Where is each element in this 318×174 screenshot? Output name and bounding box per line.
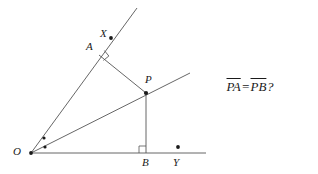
geometry-figure: O X A P B Y PA=PB? (0, 0, 318, 174)
equal-angle-dot-upper (42, 136, 45, 139)
segment-PA-label: PA (226, 79, 241, 94)
point-label-B: B (142, 157, 149, 168)
point-dot-X (109, 36, 113, 40)
point-label-A: A (86, 41, 93, 52)
point-label-X: X (100, 28, 107, 39)
segment-PB-label: PB (250, 79, 267, 94)
line-segment-AP (99, 55, 146, 93)
right-angle-mark-at-B (139, 146, 146, 153)
equals-sign: = (241, 79, 250, 94)
line-ray-OP (31, 73, 190, 153)
question-mark: ? (267, 79, 274, 94)
equality-question-annotation: PA=PB? (226, 80, 273, 94)
point-dot-Y (176, 145, 180, 149)
point-dot-O (29, 151, 33, 155)
right-angle-B-path (139, 146, 146, 153)
equal-angle-dot-lower (43, 145, 46, 148)
point-dot-P (144, 91, 148, 95)
point-label-Y: Y (173, 157, 179, 168)
point-label-O: O (13, 146, 21, 157)
vertex-dots (29, 36, 180, 155)
figure-lines (31, 8, 206, 153)
line-ray-OX (31, 8, 137, 153)
point-label-P: P (145, 74, 152, 85)
